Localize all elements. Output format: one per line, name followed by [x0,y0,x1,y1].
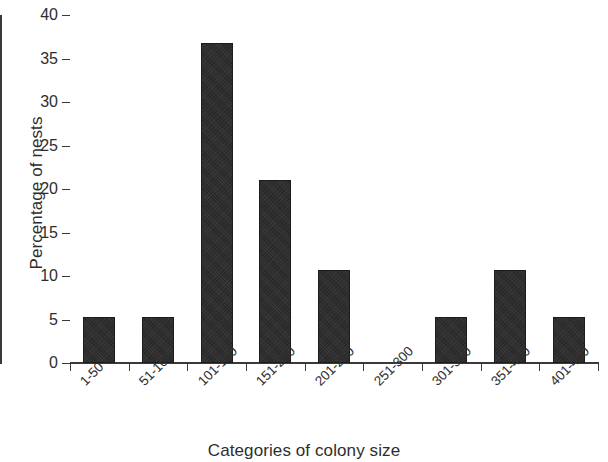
y-axis-tick [62,15,70,16]
y-axis-tick-label: 30 [14,93,58,111]
y-axis-tick-label: 10 [14,267,58,285]
y-axis-tick [62,59,70,60]
x-axis-tick [129,363,130,371]
y-axis-tick-label: 40 [14,6,58,24]
x-axis-tick [481,363,482,371]
y-axis-tick [62,146,70,147]
x-axis-tick [363,363,364,371]
y-axis-tick-label: 20 [14,180,58,198]
x-axis-tick [246,363,247,371]
y-axis-tick [62,363,70,364]
y-axis-tick-label: 5 [14,311,58,329]
x-axis-tick [598,363,599,371]
y-axis-tick [62,102,70,103]
y-axis-tick-label: 15 [14,224,58,242]
bar [201,43,233,363]
y-axis-tick [62,189,70,190]
x-axis-tick [305,363,306,371]
bar [83,317,115,363]
y-axis-line [0,15,2,364]
y-axis-tick [62,320,70,321]
x-axis-tick [70,363,71,371]
x-axis-tick [187,363,188,371]
x-axis-category-label: 251-300 [371,343,416,388]
bar [259,180,291,363]
x-axis-tick [539,363,540,371]
x-axis-tick [422,363,423,371]
y-axis-tick-label: 25 [14,137,58,155]
x-axis-title: Categories of colony size [0,441,608,461]
y-axis-tick-label: 35 [14,50,58,68]
y-axis-tick-label: 0 [14,354,58,372]
bar-chart-figure: Percentage of nests 0510152025303540 1-5… [0,0,608,462]
y-axis-tick [62,233,70,234]
y-axis-tick [62,276,70,277]
